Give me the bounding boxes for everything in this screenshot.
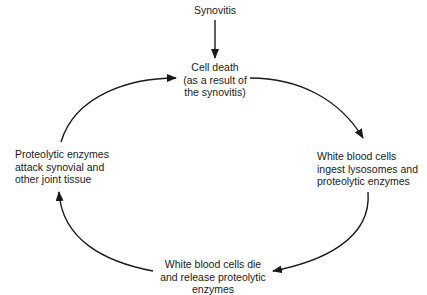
node-wbc-die: White blood cells die and release proteo… xyxy=(148,258,278,295)
arrow-wbc-ingest-to-wbc-die xyxy=(273,192,368,271)
node-synovitis: Synovitis xyxy=(175,4,255,17)
arrow-wbc-die-to-enzymes-attack xyxy=(59,192,153,271)
node-enzymes-attack: Proteolytic enzymes attack synovial and … xyxy=(15,148,130,186)
arrow-cell-death-to-wbc-ingest xyxy=(250,78,363,138)
arrow-enzymes-attack-to-cell-death xyxy=(61,78,176,142)
node-wbc-ingest: White blood cells ingest lysosomes and p… xyxy=(317,150,427,188)
node-cell-death: Cell death (as a result of the synovitis… xyxy=(165,61,265,99)
